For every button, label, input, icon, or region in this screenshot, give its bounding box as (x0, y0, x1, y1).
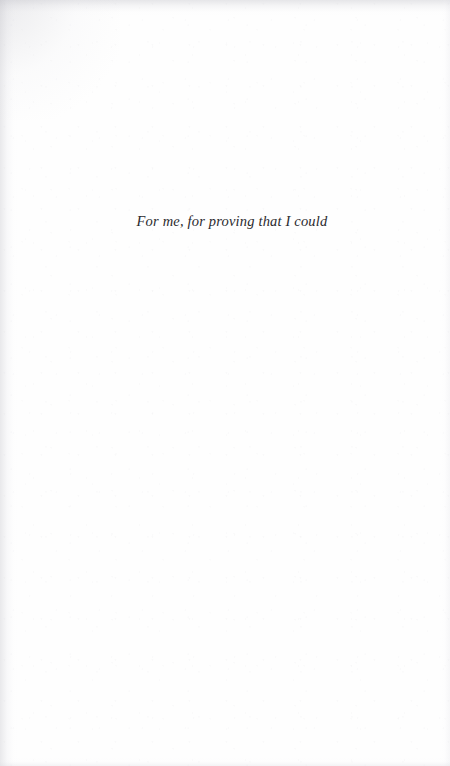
scan-edge-shadow-top (0, 0, 450, 16)
scan-edge-shadow-left (0, 0, 18, 766)
dedication-text: For me, for proving that I could (137, 211, 328, 231)
scanned-book-page: For me, for proving that I could (0, 0, 450, 766)
paper-texture-overlay (0, 0, 450, 766)
scan-edge-shadow-right (440, 0, 450, 766)
scan-edge-shadow-bottom (0, 758, 450, 766)
scan-corner-vignette (0, 0, 120, 120)
dedication-block: For me, for proving that I could (0, 196, 450, 245)
